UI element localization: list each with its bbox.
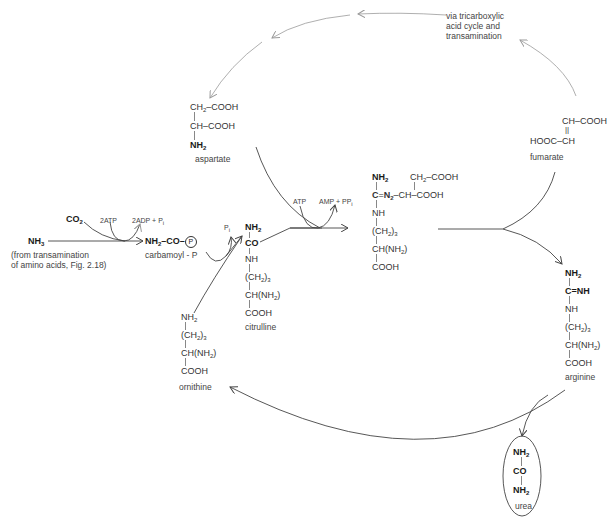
carbamoyl-to-citrulline-arrow bbox=[206, 236, 242, 261]
atp-label: ATP bbox=[293, 197, 306, 207]
atp2-label: 2ATP bbox=[100, 216, 117, 226]
nh3-note-2: of amino acids, Fig. 2.18) bbox=[11, 260, 106, 270]
tca-note-2: acid cycle and bbox=[446, 21, 500, 31]
to-fumarate-arc bbox=[503, 172, 555, 229]
tca-note-1: via tricarboxylic bbox=[446, 11, 504, 21]
co2-label: CO2 bbox=[66, 214, 83, 224]
pi-label: Pi bbox=[224, 223, 230, 233]
carbamoyl-p-label: carbamoyl - P bbox=[145, 250, 197, 260]
tca-note-3: transamination bbox=[446, 31, 502, 41]
adp2-pi-label: 2ADP + Pi bbox=[132, 216, 164, 226]
aspartate-arrow bbox=[256, 147, 320, 228]
carbamoyl-p-formula: NH2–CO–P bbox=[145, 236, 197, 248]
ornithine-to-citrulline-arrow bbox=[194, 236, 242, 313]
amp-ppi-label: AMP + PPi bbox=[319, 197, 353, 207]
arginine-to-ornithine-arc bbox=[230, 387, 565, 439]
arginine-to-urea-arrow bbox=[522, 395, 548, 436]
to-arginine-arrow bbox=[503, 229, 562, 264]
nh3-label: NH3 bbox=[28, 236, 44, 246]
nh3-note-1: (from transamination bbox=[11, 250, 89, 260]
